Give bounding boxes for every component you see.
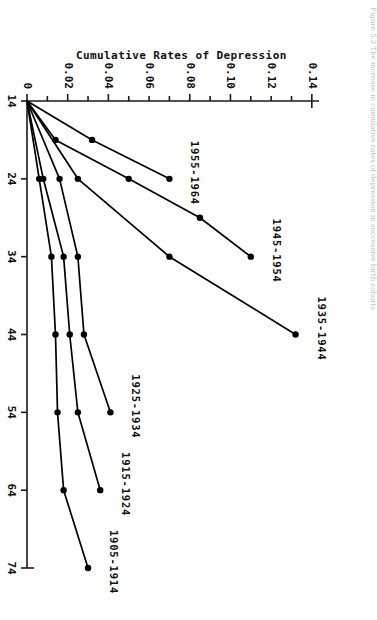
- y-axis-tick-label: 0.08: [183, 63, 196, 90]
- data-point: [166, 253, 172, 259]
- data-point: [56, 176, 62, 182]
- series-label-1945-1954: 1945-1954: [271, 219, 283, 283]
- data-point: [54, 409, 60, 415]
- x-axis-tick-label: 14: [5, 94, 18, 107]
- data-point: [60, 487, 66, 493]
- data-point: [75, 409, 81, 415]
- y-axis-tick-label: 0.12: [265, 63, 278, 90]
- data-point: [197, 215, 203, 221]
- y-axis-tick-label: 0.06: [143, 63, 156, 90]
- data-point: [97, 487, 103, 493]
- y-axis-title: Cumulative Rates of Depression: [77, 49, 288, 62]
- y-axis-tick-label: 0.14: [305, 63, 318, 90]
- data-point: [292, 331, 298, 337]
- figure-caption: Figure 5.2 The increase in cumulative ra…: [369, 7, 377, 310]
- x-axis-tick-label: 54: [5, 406, 18, 419]
- series-line-1915-1924: [27, 101, 100, 490]
- data-point: [67, 331, 73, 337]
- x-axis-tick-label: 44: [5, 328, 18, 341]
- y-axis-tick-label: 0.10: [224, 63, 237, 90]
- series-label-1915-1924: 1915-1924: [120, 452, 132, 516]
- data-point: [126, 176, 132, 182]
- y-axis-tick-label: 0: [21, 82, 34, 89]
- data-point: [60, 253, 66, 259]
- data-point: [52, 331, 58, 337]
- data-point: [89, 137, 95, 143]
- y-axis-tick-label: 0.02: [61, 63, 74, 90]
- x-axis-tick-label: 74: [5, 561, 18, 574]
- data-point: [75, 176, 81, 182]
- series-label-1925-1934: 1925-1934: [130, 374, 142, 438]
- series-line-1955-1964: [27, 101, 169, 179]
- data-point: [75, 253, 81, 259]
- data-point: [85, 565, 91, 571]
- data-point: [248, 253, 254, 259]
- x-axis-tick-label: 64: [5, 484, 18, 497]
- data-point: [36, 176, 42, 182]
- series-label-1935-1944: 1935-1944: [316, 296, 328, 360]
- series-label-1905-1914: 1905-1914: [108, 530, 120, 594]
- data-point: [48, 253, 54, 259]
- data-point: [107, 409, 113, 415]
- x-axis-tick-label: 24: [5, 172, 18, 185]
- data-point: [166, 176, 172, 182]
- series-label-1955-1964: 1955-1964: [189, 141, 201, 205]
- x-axis-tick-label: 34: [5, 250, 18, 263]
- y-axis-tick-label: 0.04: [102, 63, 115, 90]
- data-point: [81, 331, 87, 337]
